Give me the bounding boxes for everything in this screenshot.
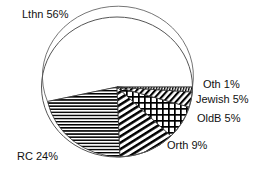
pie-label-lthn: Lthn 56% [22, 8, 68, 20]
pie-chart: Lthn 56% Oth 1% Jewish 5% OldB 5% Orth 9… [0, 0, 270, 175]
pie-label-jewish: Jewish 5% [196, 93, 249, 105]
pie-label-oldb: OldB 5% [197, 112, 240, 124]
pie-label-orth: Orth 9% [167, 139, 207, 151]
pie-label-rc: RC 24% [17, 150, 58, 162]
pie-label-oth: Oth 1% [203, 78, 240, 90]
